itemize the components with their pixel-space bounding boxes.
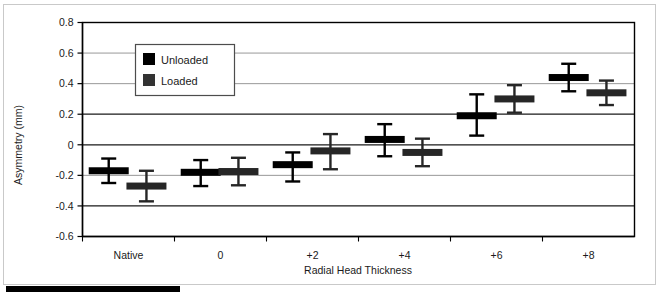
mean-bar — [181, 169, 221, 176]
mean-bar — [310, 147, 350, 154]
data-point-marker — [310, 134, 350, 169]
legend-label-unloaded: Unloaded — [161, 54, 208, 66]
y-axis-ticks: 0.80.60.40.20-0.2-0.4-0.6 — [55, 16, 82, 242]
x-axis-title: Radial Head Thickness — [304, 264, 412, 276]
y-axis-title: Asymmetry (mm) — [12, 105, 24, 185]
mean-bar — [365, 136, 405, 143]
y-tick-label: -0.2 — [55, 169, 73, 181]
figure-root: 0.80.60.40.20-0.2-0.4-0.6 Native0+2+4+6+… — [0, 0, 662, 295]
x-tick-label: Native — [114, 249, 144, 261]
x-tick-label: +2 — [307, 249, 319, 261]
data-point-marker — [273, 152, 313, 181]
y-tick-label: 0.4 — [59, 77, 74, 89]
asymmetry-vs-radial-head-thickness-chart: 0.80.60.40.20-0.2-0.4-0.6 Native0+2+4+6+… — [0, 0, 662, 295]
x-tick-label: 0 — [218, 249, 224, 261]
x-axis-ticks: Native0+2+4+6+8 — [83, 237, 595, 261]
y-tick-label: 0 — [68, 139, 74, 151]
data-point-marker — [494, 85, 534, 113]
data-point-marker — [457, 94, 497, 135]
y-tick-label: 0.8 — [59, 16, 74, 28]
mean-bar — [457, 112, 497, 119]
mean-bar — [586, 89, 626, 96]
legend-box — [136, 45, 235, 96]
mean-bar — [494, 95, 534, 102]
legend-swatch-loaded — [143, 74, 155, 86]
data-point-marker — [549, 64, 589, 92]
mean-bar — [218, 168, 258, 175]
chart-legend: Unloaded Loaded — [136, 45, 235, 96]
data-point-marker — [365, 124, 405, 156]
scan-edge-artifact — [6, 286, 180, 292]
y-tick-label: -0.4 — [55, 200, 73, 212]
legend-swatch-unloaded — [143, 53, 155, 65]
y-tick-label: 0.6 — [59, 47, 74, 59]
x-tick-label: +4 — [399, 249, 411, 261]
mean-bar — [89, 167, 129, 174]
y-tick-label: -0.6 — [55, 230, 73, 242]
data-point-marker — [181, 160, 221, 186]
x-tick-label: +8 — [583, 249, 595, 261]
data-point-marker — [89, 159, 129, 183]
mean-bar — [126, 183, 166, 190]
data-point-marker — [586, 81, 626, 105]
mean-bar — [273, 161, 313, 168]
mean-bar — [402, 149, 442, 156]
y-tick-label: 0.2 — [59, 108, 74, 120]
legend-label-loaded: Loaded — [161, 75, 198, 87]
x-tick-label: +6 — [491, 249, 503, 261]
data-point-marker — [402, 139, 442, 167]
mean-bar — [549, 74, 589, 81]
data-point-marker — [218, 158, 258, 186]
